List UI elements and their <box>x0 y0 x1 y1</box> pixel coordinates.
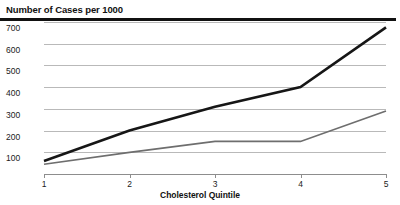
x-axis-tick-mark <box>301 174 302 178</box>
title-underline-rule <box>0 18 396 21</box>
x-axis-tick-label: 1 <box>34 179 54 189</box>
x-axis-tick-mark <box>130 174 131 178</box>
plot-area <box>44 22 386 174</box>
y-axis-tick-label: 600 <box>6 45 44 55</box>
data-line-lower-line <box>44 111 386 164</box>
y-axis-tick-label: 200 <box>6 132 44 142</box>
chart-title: Number of Cases per 1000 <box>6 4 123 15</box>
x-axis-tick-label: 2 <box>120 179 140 189</box>
x-axis-tick-label: 5 <box>376 179 396 189</box>
series-group <box>44 22 386 174</box>
y-axis-tick-label: 100 <box>6 153 44 163</box>
x-axis-title: Cholesterol Quintile <box>0 190 400 200</box>
y-axis-tick-label: 300 <box>6 110 44 120</box>
y-axis-tick-label: 700 <box>6 23 44 33</box>
x-axis-tick-mark <box>44 174 45 178</box>
y-axis-tick-label: 500 <box>6 66 44 76</box>
chart-figure: Number of Cases per 1000 100200300400500… <box>0 0 400 205</box>
x-axis-tick-mark <box>386 174 387 178</box>
x-axis-tick-label: 3 <box>205 179 225 189</box>
x-axis-tick-label: 4 <box>291 179 311 189</box>
y-axis-tick-label: 400 <box>6 88 44 98</box>
x-axis-tick-mark <box>215 174 216 178</box>
